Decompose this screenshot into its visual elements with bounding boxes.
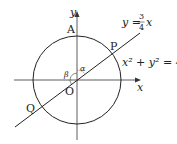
- alpha-label: α: [80, 64, 86, 73]
- origin-label: O: [65, 85, 74, 98]
- point-a-label: A: [66, 23, 76, 36]
- point-p-label: P: [110, 40, 118, 53]
- line-eq-denominator: 4: [139, 23, 144, 32]
- line-eq-numerator: 3: [139, 12, 144, 21]
- beta-label: β: [63, 70, 69, 79]
- x-axis-label: x: [137, 81, 144, 94]
- line-eq-variable: x: [146, 16, 153, 29]
- diagram-canvas: y x A P Q O α β y = 3 4 x x² + y² = 4: [0, 0, 177, 144]
- line-eq-lhs: y =: [121, 16, 141, 29]
- y-axis-label: y: [69, 6, 77, 19]
- line-equation: y = 3 4 x: [121, 12, 153, 32]
- circle-equation: x² + y² = 4: [122, 56, 177, 69]
- point-q-label: Q: [26, 102, 35, 115]
